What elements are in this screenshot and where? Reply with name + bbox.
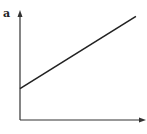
chart: a: [0, 0, 147, 134]
y-axis: [18, 10, 23, 120]
x-axis: [20, 118, 146, 123]
series-layer: [20, 16, 136, 88]
x-axis-arrow-icon: [139, 118, 146, 123]
y-axis-arrow-icon: [18, 10, 23, 17]
panel-label: a: [3, 7, 10, 20]
series-line-0: [20, 16, 136, 88]
